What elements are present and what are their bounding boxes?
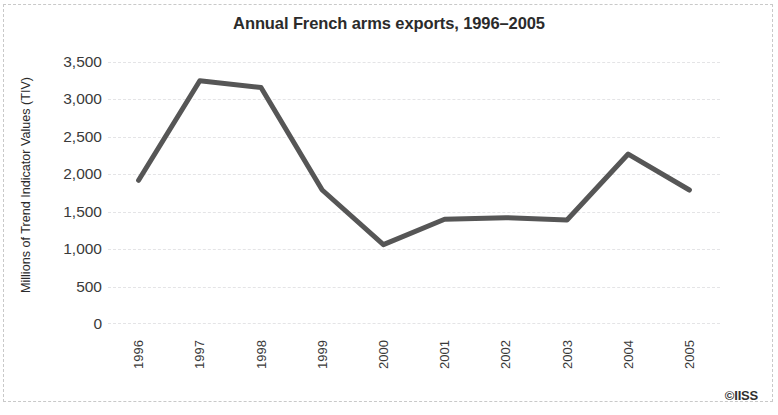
y-tick-label: 2,000: [30, 165, 102, 183]
y-tick-label: 3,500: [30, 53, 102, 71]
x-tick-label-text: 1996: [131, 340, 146, 369]
x-tick-label: 2003: [541, 330, 593, 363]
x-tick-label-text: 2002: [498, 340, 513, 369]
x-tick-label: 1996: [113, 330, 165, 363]
y-axis-tick-labels: 05001,0001,5002,0002,5003,0003,500: [28, 62, 102, 324]
x-tick-label: 2005: [663, 330, 715, 363]
chart-figure: Annual French arms exports, 1996–2005 Mi…: [0, 0, 778, 415]
x-tick-label: 1998: [235, 330, 287, 363]
copyright-credit: ©IISS: [725, 388, 758, 403]
x-tick-label-text: 2003: [559, 340, 574, 369]
chart-title: Annual French arms exports, 1996–2005: [0, 14, 778, 33]
x-tick-label: 2004: [602, 330, 654, 363]
series-polyline: [139, 81, 690, 245]
x-tick-label: 1997: [174, 330, 226, 363]
x-tick-label-text: 2004: [621, 340, 636, 369]
x-tick-label: 2002: [480, 330, 532, 363]
y-tick-label: 1,000: [30, 240, 102, 258]
x-tick-label-text: 1999: [315, 340, 330, 369]
x-tick-label: 2000: [357, 330, 409, 363]
y-tick-label: 0: [30, 315, 102, 333]
x-tick-label: 1999: [296, 330, 348, 363]
y-tick-label: 2,500: [30, 128, 102, 146]
x-tick-label-text: 2005: [682, 340, 697, 369]
y-tick-label: 3,000: [30, 90, 102, 108]
x-tick-label: 2001: [419, 330, 471, 363]
x-axis-tick-labels: 1996199719981999200020012002200320042005: [108, 330, 720, 382]
y-tick-label: 1,500: [30, 203, 102, 221]
line-series: [108, 62, 720, 324]
x-tick-label-text: 1997: [192, 340, 207, 369]
plot-area: [108, 62, 720, 324]
y-tick-label: 500: [30, 278, 102, 296]
x-tick-label-text: 2000: [376, 340, 391, 369]
x-tick-label-text: 1998: [253, 340, 268, 369]
x-tick-label-text: 2001: [437, 340, 452, 369]
